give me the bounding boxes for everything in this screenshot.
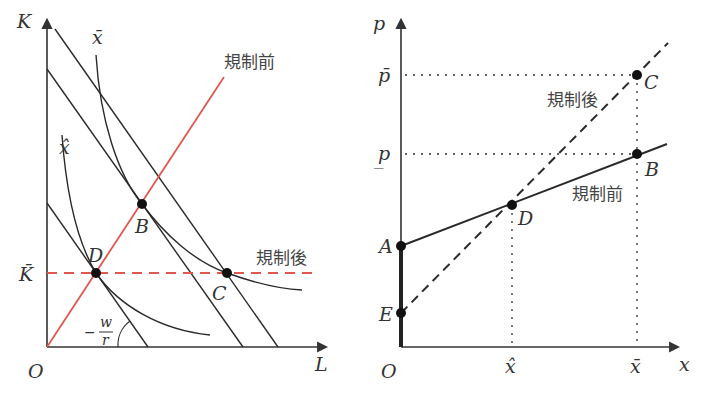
xhat-label: x̂ [505, 355, 516, 377]
kbar-label: K̄ [18, 263, 35, 285]
isoquant-xbar-label: x̄ [92, 26, 103, 48]
point-a-label: A [377, 235, 393, 257]
point-c-right [632, 70, 642, 80]
point-c-left [222, 268, 232, 278]
origin-label-left: O [28, 360, 44, 382]
regulation-cost-diagram: K L O K̄ x̄ x̂ B C D − w r 規制前 規制後 [0, 0, 701, 400]
point-b-right [632, 149, 642, 159]
after-regulation-label-right: 規制後 [547, 90, 598, 110]
point-d-right-label: D [517, 207, 533, 229]
point-a [396, 241, 406, 251]
origin-label-right: O [381, 360, 397, 382]
point-b-left-label: B [134, 215, 149, 237]
point-c-left-label: C [212, 282, 227, 304]
point-e-label: E [378, 303, 393, 325]
after-regulation-label-left: 規制後 [256, 248, 307, 268]
pbar-label: p̄ [378, 64, 390, 86]
cost-line-after-regulation [401, 43, 668, 313]
point-c-right-label: C [644, 71, 659, 93]
slope-angle-arc [118, 321, 130, 347]
isoquant-xhat-label: x̂ [59, 136, 70, 158]
x-axis-label: x [679, 353, 690, 375]
right-panel-cost-curve: p x O p̄ p̲ x̂ x̄ A E D B C 規制後 規制前 [373, 12, 690, 382]
isocost-line-high [55, 29, 278, 347]
point-e [396, 308, 406, 318]
before-regulation-label-left: 規制前 [224, 52, 275, 72]
slope-sign: − [84, 324, 96, 340]
left-panel-input-space: K L O K̄ x̄ x̂ B C D − w r 規制前 規制後 [16, 10, 328, 382]
k-axis-label: K [16, 10, 33, 32]
slope-denominator: r [102, 332, 110, 348]
point-d-left-label: D [87, 244, 103, 266]
slope-numerator: w [100, 314, 112, 330]
point-b-left [137, 199, 147, 209]
p-axis-label: p [373, 12, 385, 34]
point-d-left [91, 268, 101, 278]
point-d-right [507, 200, 517, 210]
before-regulation-label-right: 規制前 [572, 184, 623, 204]
l-axis-label: L [314, 353, 328, 375]
punder-label: p̲ [374, 142, 391, 169]
cost-line-before-regulation [401, 144, 667, 246]
xbar-label: x̄ [630, 355, 641, 377]
point-b-right-label: B [644, 158, 659, 180]
